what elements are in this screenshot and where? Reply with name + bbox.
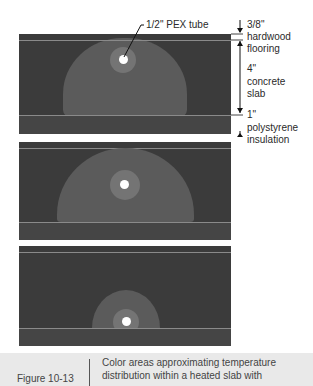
insulation-label-1: polystyrene [247, 122, 298, 134]
insulation-layer [19, 329, 231, 346]
concrete-size-label: 4" [247, 63, 256, 75]
figure-caption: Figure 10-13 Color areas approximating t… [0, 353, 313, 386]
insulation-layer [19, 223, 231, 240]
caption-divider [89, 359, 90, 386]
pex-tube-label: 1/2" PEX tube [146, 19, 208, 31]
slab-panel-tube-low [19, 246, 231, 346]
slab-panel-tube-mid [19, 142, 231, 240]
caption-text: Color areas approximating temperature di… [102, 356, 276, 382]
hardwood-line [19, 252, 231, 253]
concrete-label-1: concrete [247, 76, 285, 88]
caption-line-2: distribution within a heated slab with [102, 369, 276, 382]
pex-tube-dot [122, 317, 131, 326]
caption-line-1: Color areas approximating temperature [102, 356, 276, 369]
hardwood-label-2: flooring [247, 43, 280, 55]
hardwood-size-label: 3/8" [247, 19, 264, 31]
concrete-label-2: slab [247, 88, 265, 100]
insulation-label-2: insulation [247, 134, 289, 146]
figure-number: Figure 10-13 [17, 373, 74, 384]
hardwood-label-1: hardwood [247, 31, 291, 43]
insulation-size-label: 1" [247, 109, 256, 121]
pex-tube-dot [120, 180, 129, 189]
